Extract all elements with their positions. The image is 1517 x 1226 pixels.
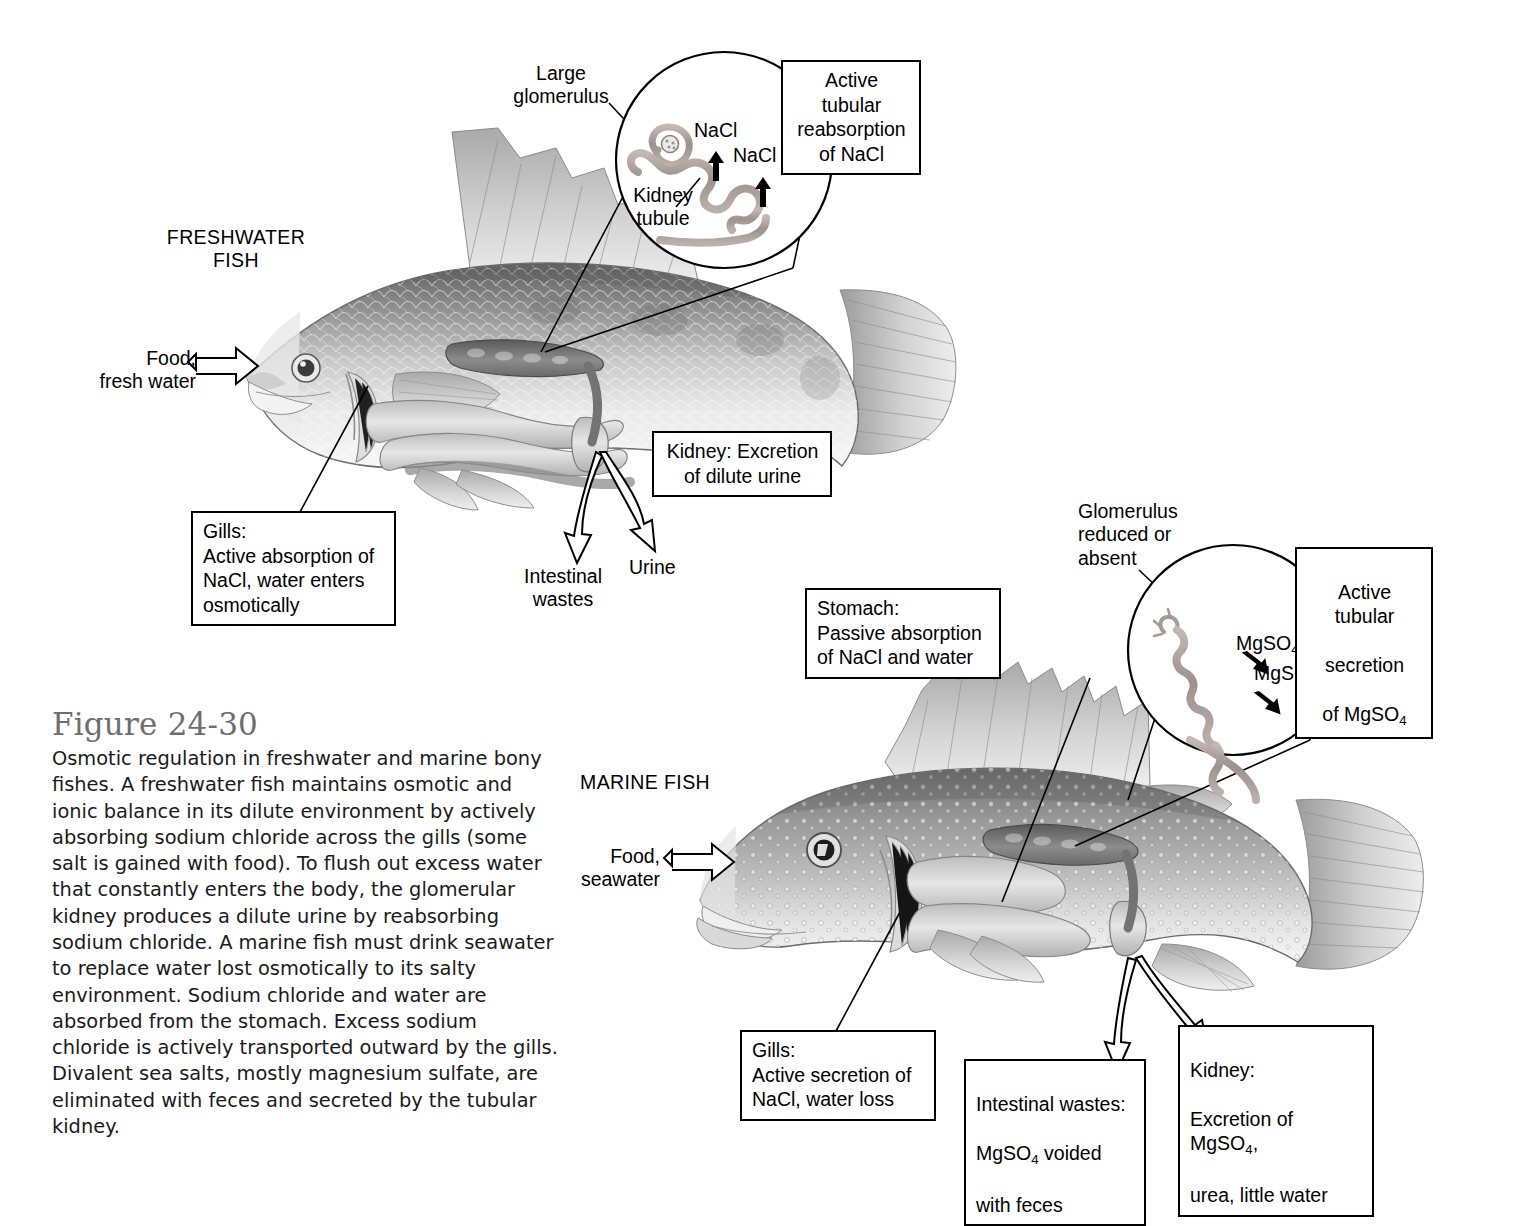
intestinal-line-2: MgSO: [976, 1142, 1031, 1164]
mgso4-label-1: MgSO4: [1236, 632, 1299, 658]
figure-caption-text: Osmotic regulation in freshwater and mar…: [52, 746, 560, 1140]
kidney-line-3: urea, little water: [1190, 1184, 1328, 1206]
figure-caption-block: Figure 24-30 Osmotic regulation in fresh…: [52, 706, 560, 1140]
freshwater-kidney-box: Kidney: Excretion of dilute urine: [652, 431, 832, 497]
marine-tubule-secretion-box: Active tubular secretion of MgSO4: [1295, 547, 1433, 739]
marine-gills-box: Gills: Active secretion of NaCl, water l…: [740, 1030, 936, 1121]
freshwater-intestinal-wastes-label: Intestinal wastes: [508, 565, 618, 612]
freshwater-gills-box: Gills: Active absorption of NaCl, water …: [191, 511, 396, 626]
marine-stomach-box: Stomach: Passive absorption of NaCl and …: [805, 588, 1001, 679]
nacl-label-1: NaCl: [694, 119, 737, 142]
kidney-line-1: Kidney:: [1190, 1059, 1255, 1081]
marine-glomerulus-label: Glomerulus reduced or absent: [1078, 500, 1178, 570]
freshwater-input-label: Food, fresh water: [38, 347, 196, 394]
freshwater-tubule-reabsorption-box: Active tubular reabsorption of NaCl: [781, 60, 921, 175]
secretion-line-3: of MgSO: [1322, 703, 1399, 725]
marine-intestinal-wastes-box: Intestinal wastes: MgSO4 voided with fec…: [964, 1059, 1146, 1226]
nacl-label-2: NaCl: [733, 144, 776, 167]
marine-kidney-box: Kidney: Excretion of MgSO4, urea, little…: [1178, 1025, 1374, 1217]
secretion-line-2: secretion: [1325, 654, 1404, 676]
marine-fish-heading: MARINE FISH: [580, 771, 710, 794]
secretion-line-1: Active tubular: [1335, 581, 1395, 628]
kidney-tubule-label: Kidney tubule: [622, 184, 704, 231]
intestinal-line-1: Intestinal wastes:: [976, 1093, 1126, 1115]
freshwater-fish-heading: FRESHWATER FISH: [160, 226, 312, 273]
kidney-line-2: Excretion of MgSO: [1190, 1108, 1293, 1155]
intestinal-line-3: with feces: [976, 1194, 1063, 1216]
freshwater-urine-label: Urine: [629, 556, 676, 579]
figure-number: Figure 24-30: [52, 706, 560, 742]
large-glomerulus-label: Large glomerulus: [506, 62, 616, 109]
